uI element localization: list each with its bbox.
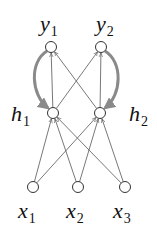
node-h2 (95, 108, 106, 119)
node-x3 (120, 182, 131, 193)
node-y1 (46, 42, 57, 53)
network-diagram: y1y2h1h2x1x2x3 (0, 0, 157, 238)
edge-h2-y1 (55, 52, 97, 109)
node-y2 (96, 42, 107, 53)
feedback-edges-layer (34, 51, 118, 108)
label-x1: x1 (17, 198, 36, 226)
feedback-arrow-y1-h1 (34, 51, 48, 108)
edges-layer (34, 52, 123, 183)
edge-x2-h1 (55, 119, 76, 182)
edge-h1-y1 (51, 53, 53, 108)
node-x2 (73, 182, 84, 193)
edge-x1-h1 (34, 119, 51, 182)
label-h1: h1 (11, 101, 30, 129)
label-y1: y1 (38, 11, 58, 39)
node-x1 (28, 182, 39, 193)
edge-x3-h2 (102, 119, 123, 182)
node-h1 (48, 108, 59, 119)
label-h2: h2 (129, 101, 148, 129)
label-x3: x3 (112, 198, 131, 226)
edge-h1-y2 (56, 52, 97, 109)
labels-layer: y1y2h1h2x1x2x3 (11, 11, 148, 226)
feedback-arrow-y2-h2 (105, 51, 118, 108)
label-x2: x2 (65, 198, 84, 226)
edge-h2-y2 (100, 53, 101, 108)
label-y2: y2 (94, 11, 114, 39)
